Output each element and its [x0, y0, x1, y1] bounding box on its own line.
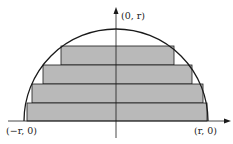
rectangle-2 [43, 65, 192, 84]
rectangle-3 [32, 84, 203, 103]
semicircle-diagram: (0, r) (−r, 0) (r, 0) [0, 0, 233, 144]
label-left-point: (−r, 0) [6, 125, 37, 136]
rectangle-1 [61, 46, 174, 65]
label-top-point: (0, r) [121, 10, 145, 21]
x-axis-arrow-icon [224, 119, 231, 124]
label-right-point: (r, 0) [194, 125, 217, 136]
y-axis-arrow-icon [114, 7, 119, 14]
rectangle-4 [27, 103, 207, 121]
inscribed-rectangles [27, 46, 207, 121]
